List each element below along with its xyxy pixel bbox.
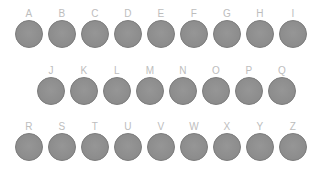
alphabet-keypad: A B C D E F G H [0,0,321,174]
key-circle-icon[interactable] [246,20,274,48]
key-a[interactable]: A [15,8,43,48]
key-circle-icon[interactable] [235,77,263,105]
key-s[interactable]: S [48,121,76,161]
key-circle-icon[interactable] [279,20,307,48]
key-label: V [158,121,165,132]
key-k[interactable]: K [70,65,98,105]
key-circle-icon[interactable] [37,77,65,105]
key-circle-icon[interactable] [180,133,208,161]
key-e[interactable]: E [147,8,175,48]
key-f[interactable]: F [180,8,208,48]
key-z[interactable]: Z [279,121,307,161]
key-row-1: A B C D E F G H [15,8,307,48]
key-label: S [59,121,66,132]
key-u[interactable]: U [114,121,142,161]
key-circle-icon[interactable] [246,133,274,161]
key-q[interactable]: Q [268,65,296,105]
key-label: Y [257,121,264,132]
key-label: L [114,65,120,76]
key-d[interactable]: D [114,8,142,48]
key-circle-icon[interactable] [147,20,175,48]
key-label: H [256,8,263,19]
key-circle-icon[interactable] [81,20,109,48]
key-label: A [26,8,33,19]
key-label: P [246,65,253,76]
key-label: E [158,8,165,19]
key-o[interactable]: O [202,65,230,105]
key-label: F [191,8,197,19]
key-circle-icon[interactable] [136,77,164,105]
key-label: T [92,121,98,132]
key-circle-icon[interactable] [103,77,131,105]
key-label: R [25,121,32,132]
key-y[interactable]: Y [246,121,274,161]
key-m[interactable]: M [136,65,164,105]
key-circle-icon[interactable] [48,20,76,48]
key-label: C [91,8,98,19]
key-label: N [179,65,186,76]
key-i[interactable]: I [279,8,307,48]
key-circle-icon[interactable] [81,133,109,161]
key-label: M [146,65,155,76]
key-row-2: J K L M N O P Q [37,65,296,105]
key-circle-icon[interactable] [48,133,76,161]
key-label: K [81,65,88,76]
key-circle-icon[interactable] [15,20,43,48]
key-n[interactable]: N [169,65,197,105]
key-w[interactable]: W [180,121,208,161]
key-label: W [189,121,199,132]
key-label: Q [278,65,286,76]
key-circle-icon[interactable] [268,77,296,105]
key-g[interactable]: G [213,8,241,48]
key-label: O [212,65,220,76]
key-r[interactable]: R [15,121,43,161]
key-label: I [292,8,295,19]
key-circle-icon[interactable] [70,77,98,105]
key-circle-icon[interactable] [202,77,230,105]
key-label: J [48,65,53,76]
key-label: Z [290,121,296,132]
key-label: U [124,121,131,132]
key-circle-icon[interactable] [213,133,241,161]
key-l[interactable]: L [103,65,131,105]
key-h[interactable]: H [246,8,274,48]
key-circle-icon[interactable] [114,20,142,48]
key-x[interactable]: X [213,121,241,161]
key-t[interactable]: T [81,121,109,161]
key-circle-icon[interactable] [213,20,241,48]
key-label: B [59,8,66,19]
key-row-3: R S T U V W X Y [15,121,307,161]
key-j[interactable]: J [37,65,65,105]
key-b[interactable]: B [48,8,76,48]
key-circle-icon[interactable] [279,133,307,161]
key-v[interactable]: V [147,121,175,161]
key-circle-icon[interactable] [15,133,43,161]
key-label: D [124,8,131,19]
key-c[interactable]: C [81,8,109,48]
key-p[interactable]: P [235,65,263,105]
key-circle-icon[interactable] [147,133,175,161]
key-circle-icon[interactable] [180,20,208,48]
key-label: G [223,8,231,19]
key-circle-icon[interactable] [169,77,197,105]
key-label: X [224,121,231,132]
key-circle-icon[interactable] [114,133,142,161]
